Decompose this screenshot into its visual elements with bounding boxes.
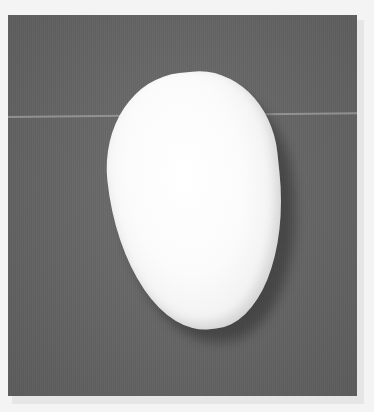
photo bbox=[8, 15, 357, 396]
